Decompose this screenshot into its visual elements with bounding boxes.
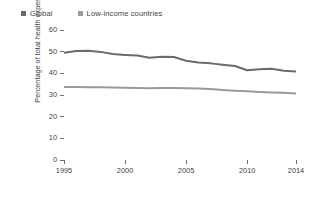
legend-swatch-low-income-countries	[78, 11, 83, 16]
y-axis-tick: 40	[18, 68, 64, 78]
y-axis-ticks: 6050403020100	[12, 30, 64, 160]
x-axis-tick: 2014	[276, 160, 313, 175]
legend-label-low-income-countries: Low-income countries	[87, 9, 163, 18]
y-axis-tick: 20	[18, 112, 64, 122]
legend-swatch-global	[21, 11, 26, 16]
x-axis-tick: 2010	[227, 160, 267, 175]
plot-area	[64, 30, 296, 160]
y-axis-tick-label: 50	[49, 47, 57, 57]
series-canvas	[64, 30, 296, 160]
x-axis-tick: 2000	[105, 160, 145, 175]
x-axis-tick-mark	[64, 160, 65, 164]
x-axis-tick-mark	[125, 160, 126, 164]
chart-legend: Global Low-income countries	[0, 6, 313, 20]
y-axis-tick: 10	[18, 133, 64, 143]
x-axis-tick-label: 2000	[105, 166, 145, 175]
y-axis-tick-label: 10	[49, 133, 57, 143]
y-axis-tick-label: 60	[49, 25, 57, 35]
y-axis-tick-label: 20	[49, 112, 57, 122]
x-axis-tick-label: 2010	[227, 166, 267, 175]
x-axis-tick: 2005	[166, 160, 206, 175]
x-axis-tick-label: 1995	[44, 166, 84, 175]
line-series-low-income-countries	[64, 87, 296, 94]
x-axis-tick-mark	[186, 160, 187, 164]
x-axis-tick-label: 2005	[166, 166, 206, 175]
y-axis-tick: 30	[18, 90, 64, 100]
y-axis-tick: 50	[18, 47, 64, 57]
x-axis-tick: 1995	[44, 160, 84, 175]
legend-item-low-income-countries[interactable]: Low-income countries	[78, 6, 163, 20]
x-axis-ticks: 19952000200520102014	[64, 160, 296, 190]
y-axis-tick-label: 40	[49, 68, 57, 78]
x-axis-tick-mark	[247, 160, 248, 164]
line-series-global	[64, 51, 296, 72]
y-axis-tick: 60	[18, 25, 64, 35]
chart-container: Global Low-income countries Percentage o…	[0, 0, 313, 197]
y-axis-tick-label: 30	[49, 90, 57, 100]
x-axis-tick-label: 2014	[276, 166, 313, 175]
x-axis-tick-mark	[296, 160, 297, 164]
